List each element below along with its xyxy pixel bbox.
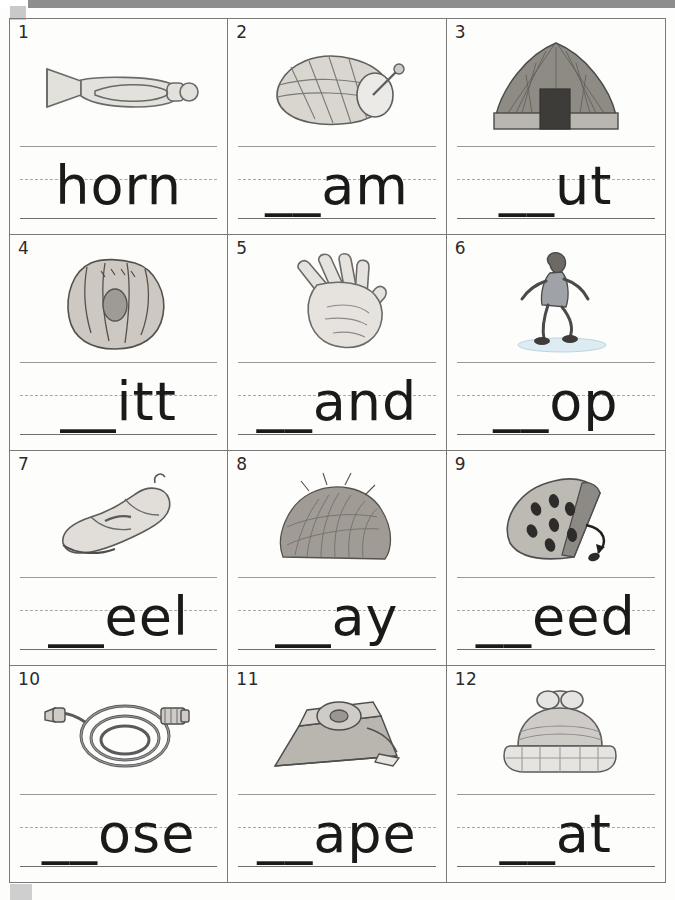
writing-lines: __at — [457, 794, 655, 874]
worksheet-item-12[interactable]: 12 — [447, 666, 665, 882]
ham-icon — [228, 33, 445, 151]
hay-icon — [228, 465, 445, 583]
tape-icon — [228, 680, 445, 798]
scan-artifact-top — [28, 0, 675, 8]
answer-word[interactable]: horn — [20, 152, 217, 220]
worksheet-item-1[interactable]: 1 horn — [10, 19, 228, 235]
worksheet-item-10[interactable]: 10 — [10, 666, 228, 882]
answer-word[interactable]: __ose — [20, 800, 217, 868]
writing-lines: __eed — [457, 577, 655, 657]
mitt-icon — [10, 249, 227, 367]
writing-lines: __ape — [238, 794, 435, 874]
writing-lines: __eel — [20, 577, 217, 657]
hose-icon — [10, 680, 227, 798]
hop-icon — [447, 249, 665, 367]
answer-word[interactable]: __ut — [457, 152, 655, 220]
answer-word[interactable]: __itt — [20, 368, 217, 436]
writing-lines: __ay — [238, 577, 435, 657]
seed-icon — [447, 465, 665, 583]
worksheet-item-3[interactable]: 3 — [447, 19, 665, 235]
writing-lines: __am — [238, 146, 435, 226]
answer-word[interactable]: __eel — [20, 583, 217, 651]
scan-artifact-bottom-left — [10, 884, 32, 900]
answer-word[interactable]: __and — [238, 368, 435, 436]
worksheet-item-6[interactable]: 6 — [447, 235, 665, 451]
worksheet-item-8[interactable]: 8 — [228, 451, 446, 667]
writing-lines: __op — [457, 362, 655, 442]
worksheet-item-7[interactable]: 7 __eel — [10, 451, 228, 667]
worksheet-item-11[interactable]: 11 — [228, 666, 446, 882]
worksheet-item-5[interactable]: 5 — [228, 235, 446, 451]
writing-lines: __and — [238, 362, 435, 442]
heel-icon — [10, 465, 227, 583]
writing-lines: __ut — [457, 146, 655, 226]
worksheet-item-2[interactable]: 2 — [228, 19, 446, 235]
writing-lines: __ose — [20, 794, 217, 874]
hand-icon — [228, 249, 445, 367]
answer-word[interactable]: __eed — [457, 583, 655, 651]
writing-lines: horn — [20, 146, 217, 226]
hut-icon — [447, 33, 665, 151]
worksheet-item-4[interactable]: 4 — [10, 235, 228, 451]
worksheet-item-9[interactable]: 9 — [447, 451, 665, 667]
answer-word[interactable]: __at — [457, 800, 655, 868]
answer-word[interactable]: __op — [457, 368, 655, 436]
answer-word[interactable]: __ape — [238, 800, 435, 868]
worksheet-page: 1 horn — [0, 0, 675, 900]
writing-lines: __itt — [20, 362, 217, 442]
answer-word[interactable]: __ay — [238, 583, 435, 651]
hat-icon — [447, 680, 665, 798]
worksheet-grid: 1 horn — [9, 18, 666, 883]
answer-word[interactable]: __am — [238, 152, 435, 220]
horn-icon — [10, 33, 227, 151]
